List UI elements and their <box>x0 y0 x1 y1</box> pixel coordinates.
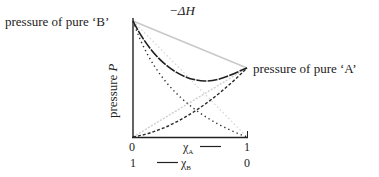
ideal-total-pressure-line <box>133 21 247 68</box>
pure-a-pressure-label: pressure of pure ‘A’ <box>253 62 357 75</box>
chi-b-subscript: B <box>186 164 191 172</box>
chi-a-subscript: A <box>188 148 193 156</box>
x-bottom-right-tick: 0 <box>244 157 250 169</box>
y-axis-label-symbol: P <box>105 63 120 71</box>
y-axis-label-text: pressure <box>105 71 120 118</box>
chi-a-label: χA <box>183 141 193 156</box>
x-top-right-tick: 1 <box>244 141 250 153</box>
pure-b-pressure-label: pressure of pure ‘B’ <box>5 15 109 28</box>
chi-b-label: χB <box>181 157 191 172</box>
x-top-left-tick: 0 <box>129 141 135 153</box>
enthalpy-annotation: −ΔH <box>169 4 195 17</box>
x-bottom-left-tick: 1 <box>130 157 136 169</box>
actual-total-pressure-curve <box>133 21 247 81</box>
y-axis-label: pressure P <box>106 63 119 118</box>
